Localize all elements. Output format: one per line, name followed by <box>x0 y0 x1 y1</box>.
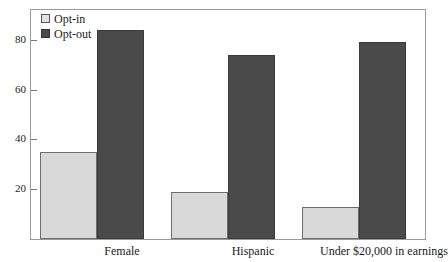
legend-entry-opt-out: Opt-out <box>41 27 91 40</box>
y-tick-label-80: 80 <box>4 34 26 45</box>
y-tick-label-20: 20 <box>4 183 26 194</box>
y-tick-label-20-wrap: 20 <box>0 183 26 194</box>
y-tick-label-40: 40 <box>4 133 26 144</box>
legend-entry-opt-in: Opt-in <box>41 12 91 25</box>
legend-label-opt-in: Opt-in <box>54 13 85 25</box>
bar-under20k-optin <box>302 207 359 239</box>
y-tick-label-60: 60 <box>4 84 26 95</box>
bar-female-optout <box>97 30 144 239</box>
x-tick-label-under20k: Under $20,000 in earnings <box>320 244 448 258</box>
legend-label-opt-out: Opt-out <box>54 28 91 40</box>
legend: Opt-in Opt-out <box>41 12 91 40</box>
bar-under20k-optout <box>359 42 406 239</box>
light-square-swatch-icon <box>41 14 50 23</box>
bar-hispanic-optin <box>171 192 228 239</box>
bar-hispanic-optout <box>228 55 275 239</box>
x-axis: Female Hispanic Under $20,000 in earning… <box>30 244 426 260</box>
y-tick-label-60-wrap: 60 <box>0 84 26 95</box>
x-tick-label-hispanic: Hispanic <box>232 244 275 258</box>
x-tick-label-female: Female <box>104 244 139 258</box>
y-tick-label-80-wrap: 80 <box>0 34 26 45</box>
bars-layer <box>31 10 425 239</box>
y-tick-label-40-wrap: 40 <box>0 133 26 144</box>
dark-square-swatch-icon <box>41 29 50 38</box>
bar-female-optin <box>40 152 97 239</box>
